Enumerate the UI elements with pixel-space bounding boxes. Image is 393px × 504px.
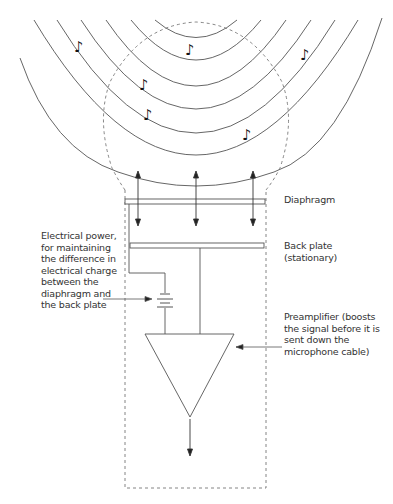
diaphragm [125,199,265,204]
circuit-wires [129,204,200,334]
output-arrow [188,419,193,456]
label-back-plate-note: (stationary) [284,252,337,264]
label-diaphragm: Diaphragm [284,194,335,206]
music-note-icon: ♪ [74,38,84,56]
music-note-icon: ♪ [139,76,149,94]
battery-symbol [157,294,173,307]
pickup-zone-outline [103,22,288,488]
music-notes: ♪ ♪ ♪ ♪ ♪ ♪ [74,38,310,144]
music-note-icon: ♪ [300,46,310,64]
music-note-icon: ♪ [242,126,252,144]
label-back-plate: Back plate [284,240,332,252]
vibration-arrows [136,171,256,226]
music-note-icon: ♪ [143,106,153,124]
back-plate [130,243,264,248]
label-preamplifier: Preamplifier (boosts the signal before i… [284,311,380,357]
label-electrical-power: Electrical power, for maintaining the di… [41,230,117,311]
music-note-icon: ♪ [185,41,195,59]
preamplifier-triangle [145,334,234,417]
